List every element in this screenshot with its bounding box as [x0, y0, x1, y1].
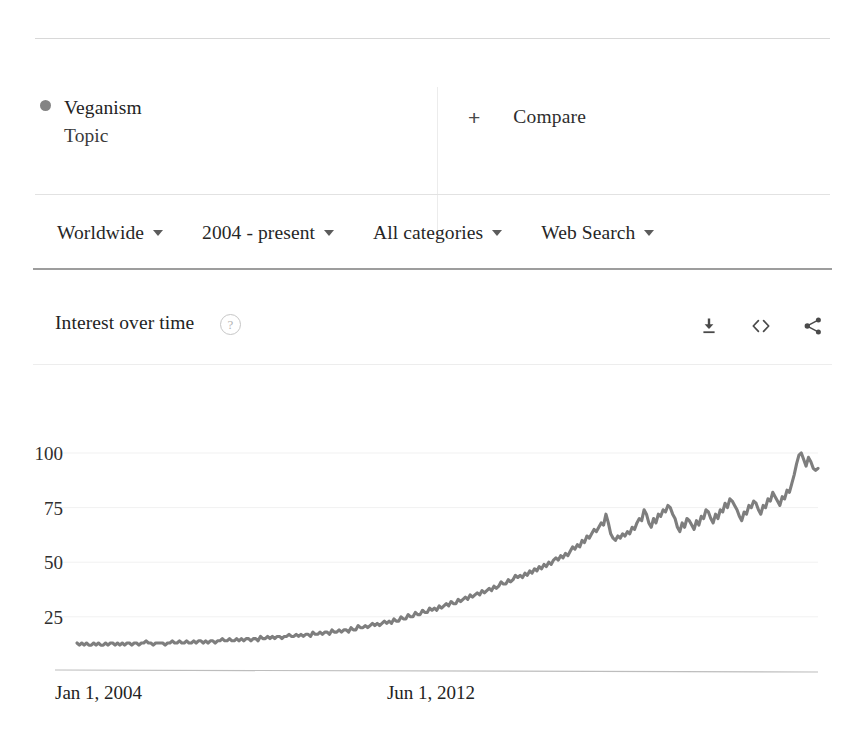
filter-time-range[interactable]: 2004 - present [202, 222, 334, 244]
filter-bar: Worldwide 2004 - present All categories … [0, 200, 863, 266]
filter-category-label: All categories [373, 222, 483, 244]
chevron-down-icon [324, 230, 334, 236]
topic-compare-row: Veganism Topic + Compare [0, 39, 863, 194]
chart-baseline [55, 670, 818, 672]
topic-name: Veganism [64, 94, 142, 122]
chart-gridlines [55, 453, 818, 617]
filter-location-label: Worldwide [57, 222, 144, 244]
interest-over-time-header: Interest over time ? [0, 300, 863, 370]
help-icon[interactable]: ? [220, 314, 241, 335]
add-compare-button[interactable]: + Compare [468, 106, 586, 128]
topic-card-text: Veganism Topic [64, 94, 142, 149]
x-axis-tick-label: Jun 1, 2012 [387, 682, 475, 703]
y-axis-tick-label: 100 [35, 443, 64, 464]
chart-x-axis-labels: Jan 1, 2004Jun 1, 2012 [55, 682, 475, 703]
y-axis-tick-label: 50 [44, 552, 63, 573]
embed-icon[interactable] [749, 314, 773, 338]
download-icon[interactable] [697, 314, 721, 338]
chevron-down-icon [644, 230, 654, 236]
series-color-dot-icon [40, 100, 51, 111]
chart-actions [697, 314, 825, 338]
filter-location[interactable]: Worldwide [57, 222, 163, 244]
compare-label: Compare [513, 106, 586, 128]
chevron-down-icon [492, 230, 502, 236]
chevron-down-icon [153, 230, 163, 236]
chart-y-axis-labels: 255075100 [35, 443, 64, 628]
section-header-divider [33, 364, 832, 365]
interest-over-time-chart[interactable]: 255075100 Jan 1, 2004Jun 1, 2012 [0, 380, 863, 737]
filter-top-divider [35, 194, 830, 195]
filter-search-type[interactable]: Web Search [541, 222, 654, 244]
section-title: Interest over time [55, 312, 194, 334]
filter-search-type-label: Web Search [541, 222, 635, 244]
filter-time-range-label: 2004 - present [202, 222, 315, 244]
y-axis-tick-label: 75 [44, 498, 63, 519]
share-icon[interactable] [801, 314, 825, 338]
filter-category[interactable]: All categories [373, 222, 502, 244]
chart-svg: 255075100 Jan 1, 2004Jun 1, 2012 [0, 380, 863, 737]
y-axis-tick-label: 25 [44, 607, 63, 628]
plus-icon: + [468, 107, 480, 128]
topic-type-label: Topic [64, 122, 142, 150]
x-axis-tick-label: Jan 1, 2004 [55, 682, 143, 703]
topic-card-veganism[interactable]: Veganism Topic [40, 94, 142, 149]
filter-bottom-divider [33, 268, 832, 270]
